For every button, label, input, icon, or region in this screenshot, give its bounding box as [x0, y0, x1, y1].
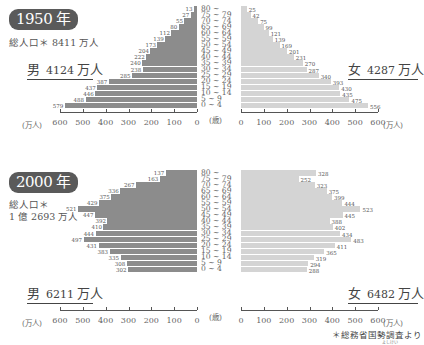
- male-bar: [107, 218, 197, 224]
- axis-tick-label: 500: [75, 118, 90, 127]
- axis-tick: [129, 307, 130, 310]
- axis-tick: [310, 307, 311, 310]
- female-bar: [241, 200, 342, 206]
- x-axis-male-1950: [60, 112, 197, 113]
- x-axis-male-2000: [60, 310, 197, 311]
- female-bar: [241, 36, 273, 42]
- axis-tick: [310, 109, 311, 112]
- year-badge-1950: 1950 年: [9, 9, 78, 30]
- axis-tick: [174, 109, 175, 112]
- male-bar: [96, 231, 197, 237]
- male-bar: [65, 103, 197, 109]
- male-bar: [146, 54, 197, 60]
- female-bar: [241, 261, 308, 267]
- female-bar: [241, 249, 324, 255]
- male-bar: [132, 73, 197, 79]
- female-bar: [241, 218, 330, 224]
- male-bar: [143, 67, 197, 73]
- unit-label-right-2000: (万人): [383, 317, 403, 328]
- male-bar: [128, 267, 197, 273]
- female-bar: [241, 18, 258, 24]
- year-badge-2000: 2000 年: [9, 172, 78, 193]
- male-bar: [78, 206, 197, 212]
- female-bar: [241, 42, 280, 48]
- male-bar: [99, 200, 197, 206]
- axis-tick: [378, 307, 379, 310]
- male-bar: [84, 237, 197, 243]
- axis-tick-label: 500: [75, 316, 90, 325]
- female-bar: [241, 30, 269, 36]
- male-bar: [171, 30, 197, 36]
- female-bar: [241, 224, 333, 230]
- axis-tick: [83, 307, 84, 310]
- female-value-label: 328: [318, 171, 329, 177]
- axis-tick-label: 300: [302, 118, 317, 127]
- male-value-label: 497: [72, 237, 83, 243]
- axis-tick: [355, 307, 356, 310]
- source-note: ＊総務省国勢調査より: [332, 328, 422, 340]
- male-value-label: 383: [98, 249, 109, 255]
- unit-label-1950: (万人): [22, 119, 42, 130]
- axis-tick-label: 100: [167, 316, 182, 325]
- male-value-label: 431: [87, 243, 98, 249]
- male-value-label: 302: [116, 267, 127, 273]
- axis-tick-label: 200: [279, 316, 294, 325]
- age-unit-label-2000: (歳): [209, 311, 222, 322]
- female-total-2000: 女6482万人: [348, 283, 418, 304]
- female-bar: [241, 267, 307, 273]
- male-bar: [136, 182, 197, 188]
- female-value-label: 523: [362, 207, 373, 213]
- female-bar: [241, 182, 315, 188]
- axis-tick-label: 500: [348, 316, 363, 325]
- axis-tick-label: 100: [167, 118, 182, 127]
- female-bar: [241, 103, 368, 109]
- axis-tick: [174, 307, 175, 310]
- axis-tick-label: 600: [52, 316, 67, 325]
- axis-tick-label: 0: [194, 316, 199, 325]
- axis-tick-label: 0: [238, 316, 243, 325]
- male-total-2000: 男6211万人: [27, 283, 93, 304]
- male-bar: [194, 6, 197, 12]
- female-bar: [241, 48, 287, 54]
- axis-tick-label: 300: [121, 316, 136, 325]
- male-value-label: 521: [66, 206, 77, 212]
- female-bar: [241, 237, 351, 243]
- axis-tick-label: 0: [194, 118, 199, 127]
- axis-tick-label: 600: [52, 118, 67, 127]
- axis-tick: [83, 109, 84, 112]
- total-population-1950: 総人口＊ 8411 万人: [9, 37, 99, 49]
- male-bar: [127, 261, 197, 267]
- unit-label-right-1950: (万人): [383, 119, 403, 130]
- female-bar: [241, 85, 339, 91]
- axis-tick: [241, 109, 242, 112]
- axis-tick: [287, 109, 288, 112]
- axis-tick: [129, 109, 130, 112]
- axis-tick-label: 0: [238, 118, 243, 127]
- age-unit-label-1950: (歳): [209, 114, 222, 125]
- axis-tick-label: 500: [348, 118, 363, 127]
- axis-tick-label: 100: [256, 118, 271, 127]
- axis-tick: [378, 109, 379, 112]
- female-bar: [241, 188, 327, 194]
- male-bar: [184, 18, 197, 24]
- axis-tick-label: 100: [256, 316, 271, 325]
- male-bar: [95, 212, 197, 218]
- female-bar: [241, 60, 303, 66]
- axis-tick-label: 200: [144, 118, 159, 127]
- axis-tick-label: 400: [325, 316, 340, 325]
- male-bar: [160, 176, 197, 182]
- male-bar: [103, 224, 197, 230]
- axis-tick-label: 300: [121, 118, 136, 127]
- female-value-label: 288: [309, 268, 320, 274]
- male-bar: [191, 12, 197, 18]
- axis-tick-label: 200: [144, 316, 159, 325]
- female-bar: [241, 231, 340, 237]
- female-bar: [241, 24, 264, 30]
- male-bar: [97, 85, 197, 91]
- female-bar: [241, 206, 360, 212]
- male-bar: [110, 249, 197, 255]
- male-bar: [111, 194, 197, 200]
- axis-tick: [151, 109, 152, 112]
- female-value-label: 483: [353, 238, 364, 244]
- male-value-label: 579: [53, 103, 64, 109]
